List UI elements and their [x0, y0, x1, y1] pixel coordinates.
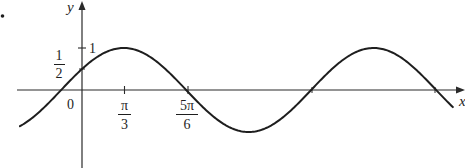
y-tick-half-denominator: 2	[56, 66, 63, 81]
x-tick-5pi-over-6-denominator: 6	[184, 117, 191, 132]
sine-graph: x y 0 1 1 2 π 3 5π 6	[0, 0, 465, 168]
bullet-marker	[1, 14, 5, 18]
y-axis-label: y	[65, 0, 74, 15]
y-tick-1-label: 1	[89, 41, 96, 56]
x-tick-pi-over-3-denominator: 3	[121, 117, 128, 132]
y-axis-arrow-icon	[79, 1, 86, 10]
x-tick-pi-over-3-numerator: π	[121, 98, 128, 113]
y-tick-half-numerator: 1	[56, 48, 63, 63]
x-tick-5pi-over-6-numerator: 5π	[180, 98, 194, 113]
origin-label: 0	[67, 97, 74, 112]
x-axis-label: x	[458, 93, 465, 109]
